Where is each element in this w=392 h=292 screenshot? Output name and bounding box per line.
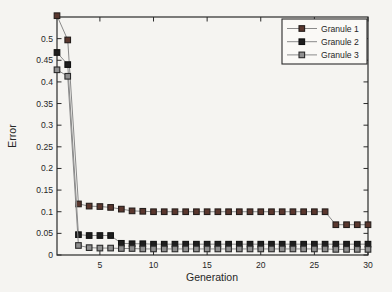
y-tick-label: 0.2 [41, 163, 53, 173]
series-3-marker [161, 246, 167, 252]
y-tick-label: 0.15 [36, 185, 53, 195]
series-2-marker [86, 233, 92, 239]
series-3-marker [97, 245, 103, 251]
error-vs-generation-chart: 5101520253000.050.10.150.20.250.30.350.4… [0, 0, 392, 292]
series-line-2 [57, 52, 368, 244]
series-1-marker [333, 222, 339, 228]
legend-label: Granule 3 [321, 50, 359, 60]
series-1-marker [108, 205, 114, 211]
y-tick-label: 0 [48, 250, 53, 260]
series-3-marker [322, 246, 328, 252]
series-1-marker [119, 206, 125, 212]
series-1-marker [161, 209, 167, 215]
series-1-marker [129, 208, 135, 214]
y-tick-label: 0.05 [36, 228, 53, 238]
series-1-marker [215, 209, 221, 215]
x-tick-label: 15 [202, 260, 212, 270]
series-1-marker [258, 209, 264, 215]
series-3-marker [194, 246, 200, 252]
legend-marker [299, 26, 305, 32]
series-1-marker [344, 222, 350, 228]
y-tick-label: 0.4 [41, 77, 53, 87]
series-1-marker [312, 209, 318, 215]
series-2-marker [54, 50, 60, 56]
x-tick-label: 20 [256, 260, 266, 270]
y-tick-label: 0.3 [41, 120, 53, 130]
series-2-marker [76, 232, 82, 238]
series-1-marker [151, 209, 157, 215]
series-1-marker [86, 203, 92, 209]
series-3-marker [344, 247, 350, 253]
series-3-marker [129, 246, 135, 252]
series-1-marker [97, 204, 103, 210]
y-tick-label: 0.25 [36, 142, 53, 152]
figure-canvas: 5101520253000.050.10.150.20.250.30.350.4… [0, 0, 392, 292]
series-3-marker [226, 246, 232, 252]
series-1-marker [54, 13, 60, 19]
series-3-marker [183, 246, 189, 252]
series-3-marker [247, 246, 253, 252]
x-tick-label: 25 [310, 260, 320, 270]
series-3-marker [86, 245, 92, 251]
series-3-marker [279, 246, 285, 252]
series-3-marker [140, 246, 146, 252]
series-1-marker [183, 209, 189, 215]
series-3-marker [204, 246, 210, 252]
legend-marker [299, 39, 305, 45]
series-1-marker [226, 209, 232, 215]
series-1-marker [322, 209, 328, 215]
series-3-marker [108, 245, 114, 251]
series-3-marker [119, 246, 125, 252]
series-1-marker [194, 209, 200, 215]
series-1-marker [290, 209, 296, 215]
series-3-marker [258, 246, 264, 252]
series-1-marker [365, 222, 371, 228]
series-1-marker [204, 209, 210, 215]
series-3-marker [54, 67, 60, 73]
series-3-marker [312, 246, 318, 252]
x-tick-label: 10 [149, 260, 159, 270]
series-1-marker [301, 209, 307, 215]
series-3-marker [301, 246, 307, 252]
series-3-marker [65, 73, 71, 79]
series-1-marker [247, 209, 253, 215]
legend: Granule 1Granule 2Granule 3 [282, 19, 367, 64]
series-3-marker [354, 247, 360, 253]
series-3-marker [215, 246, 221, 252]
legend-label: Granule 1 [321, 24, 359, 34]
series-2-marker [97, 233, 103, 239]
series-1-marker [237, 209, 243, 215]
y-tick-label: 0.45 [36, 55, 53, 65]
series-3-marker [365, 247, 371, 253]
series-1-marker [279, 209, 285, 215]
series-3-marker [333, 247, 339, 253]
series-3-marker [290, 246, 296, 252]
x-axis-label: Generation [186, 271, 238, 283]
y-tick-label: 0.5 [41, 34, 53, 44]
series-3-marker [76, 243, 82, 249]
series-1-marker [354, 222, 360, 228]
series-2-marker [108, 233, 114, 239]
x-tick-label: 30 [363, 260, 373, 270]
x-tick-label: 5 [98, 260, 103, 270]
legend-label: Granule 2 [321, 37, 359, 47]
series-line-3 [57, 70, 368, 250]
series-1-marker [269, 209, 275, 215]
series-1-marker [172, 209, 178, 215]
series-1-marker [65, 37, 71, 43]
series-3-marker [151, 246, 157, 252]
y-axis-label: Error [6, 124, 18, 148]
y-tick-label: 0.35 [36, 99, 53, 109]
series-2-marker [65, 62, 71, 68]
y-tick-label: 0.1 [41, 207, 53, 217]
legend-marker [299, 52, 305, 58]
series-3-marker [237, 246, 243, 252]
series-3-marker [172, 246, 178, 252]
series-1-marker [140, 208, 146, 214]
series-3-marker [269, 246, 275, 252]
